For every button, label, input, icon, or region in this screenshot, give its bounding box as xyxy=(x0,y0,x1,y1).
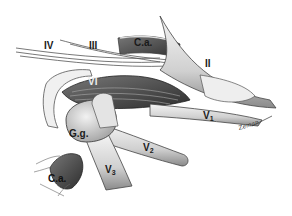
nerve-illustration xyxy=(0,0,292,216)
label-iii: III xyxy=(89,41,97,51)
label-v3: V3 xyxy=(105,165,116,178)
label-v2: V2 xyxy=(143,143,154,156)
label-ca-bottom: C.a. xyxy=(48,174,66,184)
anatomical-figure: IV III C.a. II VI V1 G.g. V2 C.a. V3 Zem… xyxy=(0,0,292,216)
label-v1: V1 xyxy=(203,111,214,124)
label-ii: II xyxy=(205,59,211,69)
label-ca-top: C.a. xyxy=(134,38,152,48)
label-iv: IV xyxy=(44,41,53,51)
label-gg: G.g. xyxy=(69,129,88,139)
label-vi: VI xyxy=(88,77,97,87)
